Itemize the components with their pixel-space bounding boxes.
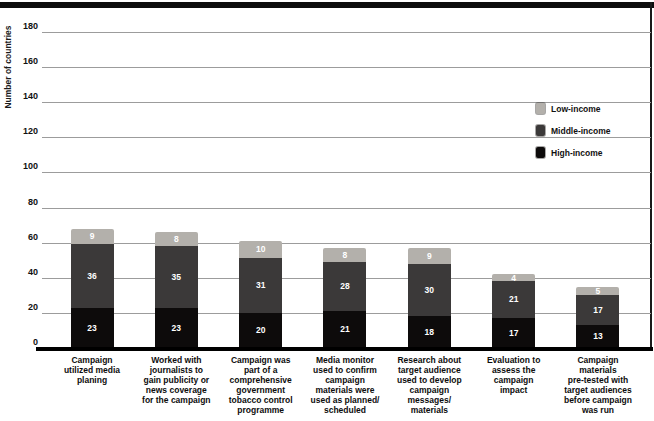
bar-value-label: 36 [87, 272, 96, 281]
legend-label: High-income [551, 148, 602, 158]
y-tick-label: 40 [12, 267, 38, 278]
bar-segment-middle-income: 31 [239, 258, 282, 312]
y-tick-label: 0 [12, 337, 38, 348]
legend-item: High-income [536, 146, 611, 159]
bar-value-label: 20 [256, 326, 265, 335]
bar-value-label: 4 [511, 274, 516, 283]
legend-item: Low-income [536, 102, 611, 115]
bar-segment-low-income: 9 [408, 248, 451, 264]
bar-segment-middle-income: 35 [155, 246, 198, 307]
figure-top-rule [0, 2, 654, 8]
bar-value-label: 35 [172, 273, 181, 282]
stacked-bar-chart-figure: Number of countries 02040608010012014016… [0, 0, 654, 421]
gridline [42, 67, 651, 68]
category-label: Research about target audience used to d… [383, 355, 475, 415]
category-label: Evaluation to assess the campaign impact [468, 355, 560, 395]
y-tick-label: 140 [12, 91, 38, 102]
bar-value-label: 28 [340, 282, 349, 291]
legend-swatch [536, 147, 545, 158]
category-label: Campaign materials pre-tested with targe… [552, 355, 644, 415]
bar-segment-middle-income: 21 [492, 281, 535, 318]
bar-segment-high-income: 17 [492, 318, 535, 348]
legend: Low-incomeMiddle-incomeHigh-income [536, 102, 611, 168]
bar-segment-high-income: 18 [408, 316, 451, 348]
legend-item: Middle-income [536, 124, 611, 137]
bar-value-label: 10 [256, 245, 265, 254]
gridline [42, 243, 651, 244]
bar-value-label: 8 [174, 235, 179, 244]
bar-segment-middle-income: 36 [71, 244, 114, 307]
bar-segment-low-income: 4 [492, 274, 535, 281]
bar-value-label: 17 [593, 306, 602, 315]
bar-value-label: 23 [172, 324, 181, 333]
bar-segment-low-income: 5 [576, 287, 619, 296]
bar-value-label: 5 [596, 287, 601, 296]
bar-value-label: 31 [256, 281, 265, 290]
bar-segment-middle-income: 30 [408, 264, 451, 317]
bar-segment-low-income: 8 [323, 248, 366, 262]
bar-segment-high-income: 23 [155, 308, 198, 348]
y-tick-label: 160 [12, 56, 38, 67]
bar-value-label: 17 [509, 329, 518, 338]
y-tick-label: 80 [12, 197, 38, 208]
bar-segment-low-income: 10 [239, 241, 282, 259]
bar-value-label: 9 [427, 252, 432, 261]
bar-value-label: 8 [343, 251, 348, 260]
category-label: Campaign was part of a comprehensive gov… [215, 355, 307, 415]
category-label: Campaign utilized media planing [46, 355, 138, 385]
y-tick-label: 60 [12, 232, 38, 243]
gridline [42, 208, 651, 209]
legend-label: Low-income [551, 104, 601, 114]
bar-segment-high-income: 13 [576, 325, 619, 348]
bar-segment-high-income: 23 [71, 308, 114, 348]
category-label: Worked with journalists to gain publicit… [130, 355, 222, 405]
category-label: Media monitor used to confirm campaign m… [299, 355, 391, 415]
bar-segment-high-income: 21 [323, 311, 366, 348]
legend-label: Middle-income [551, 126, 611, 136]
gridline [42, 32, 651, 33]
plot-right-border [650, 2, 652, 350]
bar-segment-low-income: 9 [71, 229, 114, 245]
legend-swatch [536, 125, 545, 136]
y-tick-label: 20 [12, 302, 38, 313]
bar-value-label: 23 [87, 324, 96, 333]
bar-value-label: 30 [425, 286, 434, 295]
legend-swatch [536, 103, 545, 114]
x-axis-line [36, 347, 653, 351]
bar-segment-high-income: 20 [239, 313, 282, 348]
y-tick-label: 120 [12, 126, 38, 137]
bar-value-label: 18 [425, 328, 434, 337]
bar-segment-low-income: 8 [155, 232, 198, 246]
y-tick-label: 100 [12, 161, 38, 172]
bar-value-label: 21 [340, 325, 349, 334]
bar-segment-middle-income: 28 [323, 262, 366, 311]
bar-value-label: 21 [509, 295, 518, 304]
bar-value-label: 13 [593, 332, 602, 341]
bar-segment-middle-income: 17 [576, 295, 619, 325]
gridline [42, 172, 651, 173]
y-tick-label: 180 [12, 21, 38, 32]
bar-value-label: 9 [90, 232, 95, 241]
